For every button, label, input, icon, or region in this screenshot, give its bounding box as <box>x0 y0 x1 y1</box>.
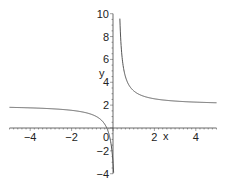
x-axis-label: x <box>163 130 169 142</box>
y-tick-label: −4 <box>96 168 109 180</box>
x-tick-label: −4 <box>24 131 37 143</box>
x-tick-label: −2 <box>65 131 78 143</box>
function-plot: −4−2024 −4−2246810 x y <box>0 0 226 189</box>
y-tick-label: 8 <box>103 31 109 43</box>
y-tick-label: −2 <box>96 145 109 157</box>
y-tick-label: 6 <box>103 53 109 65</box>
x-tick-label: 4 <box>193 131 199 143</box>
y-tick-label: 10 <box>97 8 109 20</box>
curve-right-branch <box>120 19 217 103</box>
y-axis: −4−2246810 <box>96 8 113 180</box>
y-tick-label: 2 <box>103 99 109 111</box>
x-tick-label: 2 <box>151 131 157 143</box>
y-axis-label: y <box>99 67 105 79</box>
